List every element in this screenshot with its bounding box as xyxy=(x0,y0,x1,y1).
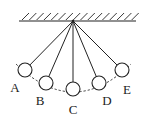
bob-e xyxy=(115,63,129,77)
ceiling-support xyxy=(19,13,139,21)
pendulum-strings xyxy=(30,21,117,82)
label-e: E xyxy=(123,82,131,97)
label-b: B xyxy=(36,93,45,108)
string-a xyxy=(30,21,73,65)
label-a: A xyxy=(10,80,20,95)
label-d: D xyxy=(102,93,111,108)
bob-a xyxy=(18,63,32,77)
bob-c xyxy=(66,82,80,96)
pivot-point xyxy=(72,20,75,23)
bob-d xyxy=(92,76,106,90)
bob-b xyxy=(39,76,53,90)
label-c: C xyxy=(69,102,78,117)
string-d xyxy=(73,21,96,77)
string-b xyxy=(49,21,73,77)
pendulum-diagram: ABCDE xyxy=(0,0,143,122)
string-e xyxy=(73,21,117,65)
